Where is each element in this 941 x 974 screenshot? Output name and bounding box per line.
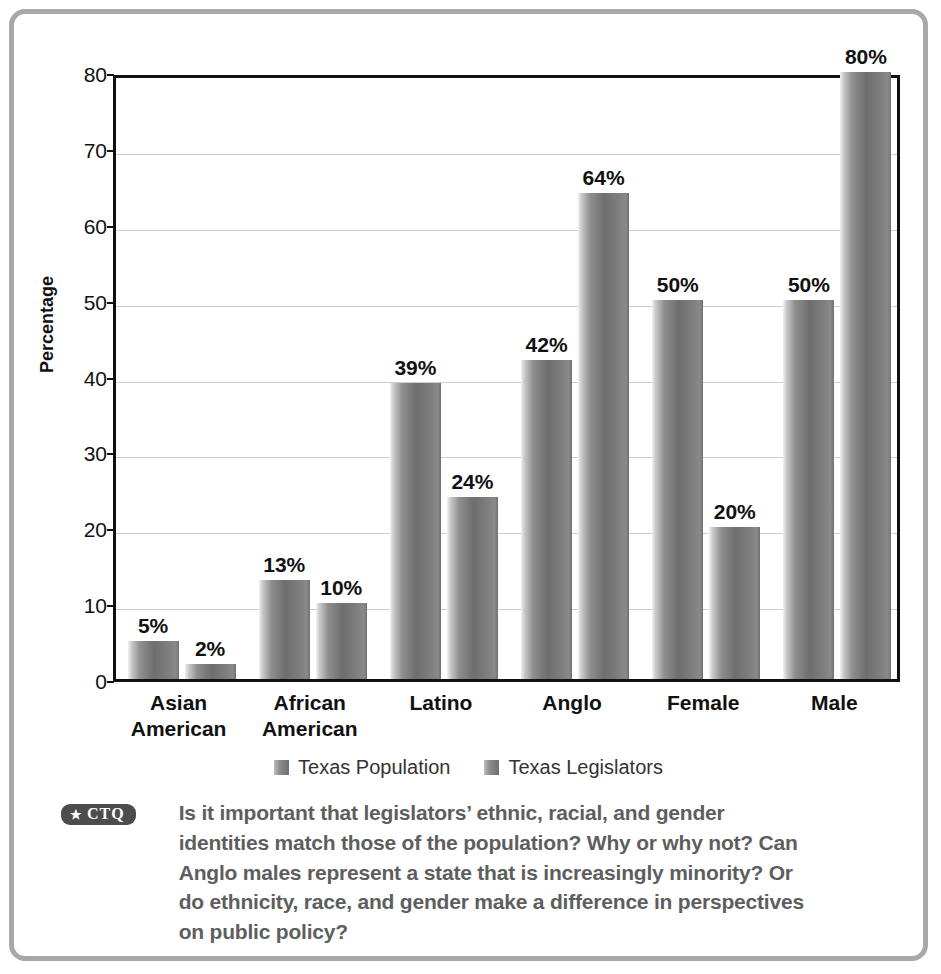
- bar-value-label: 42%: [526, 333, 568, 357]
- legend-item[interactable]: Texas Population: [274, 756, 450, 779]
- y-tick-label: 40: [61, 367, 107, 391]
- legend-swatch-icon: [484, 760, 499, 775]
- bar[interactable]: 64%: [578, 193, 629, 679]
- x-category-line: Asian: [113, 690, 244, 716]
- bar-value-label: 80%: [845, 45, 887, 69]
- bar[interactable]: 50%: [783, 300, 834, 679]
- x-category-line: Anglo: [507, 690, 638, 716]
- x-category-label: Latino: [375, 690, 506, 716]
- caption-block: ★ CTQ Is it important that legislators’ …: [14, 798, 923, 947]
- x-axis-category-labels: AsianAmericanAfricanAmericanLatinoAngloF…: [113, 690, 900, 754]
- bar-group: 42%64%: [521, 78, 629, 679]
- bar-value-label: 39%: [394, 356, 436, 380]
- ctq-badge: ★ CTQ: [61, 804, 136, 825]
- y-tick-label: 80: [61, 63, 107, 87]
- caption-paragraph: Is it important that legislators’ ethnic…: [179, 798, 819, 947]
- bar[interactable]: 5%: [128, 641, 179, 679]
- bar-value-label: 50%: [788, 273, 830, 297]
- x-category-label: Anglo: [507, 690, 638, 716]
- legend-label: Texas Legislators: [508, 756, 663, 779]
- bar-value-label: 20%: [714, 500, 756, 524]
- bar-value-label: 64%: [583, 166, 625, 190]
- bar[interactable]: 2%: [185, 664, 236, 679]
- bar[interactable]: 13%: [259, 580, 310, 679]
- star-icon: ★: [70, 808, 83, 821]
- chart-legend: Texas PopulationTexas Legislators: [14, 756, 923, 779]
- caption-text: Is it important that legislators’ ethnic…: [179, 798, 819, 947]
- bar[interactable]: 24%: [447, 497, 498, 679]
- bar-value-label: 13%: [263, 553, 305, 577]
- chart-region: Percentage 01020304050607080 5%2%13%10%3…: [14, 14, 923, 756]
- x-category-label: AsianAmerican: [113, 690, 244, 743]
- x-category-label: Female: [638, 690, 769, 716]
- bar-group: 13%10%: [259, 78, 367, 679]
- x-category-line: American: [244, 716, 375, 742]
- y-tick-label: 10: [61, 594, 107, 618]
- bar-value-label: 50%: [657, 273, 699, 297]
- x-category-line: Latino: [375, 690, 506, 716]
- y-tick-label: 70: [61, 139, 107, 163]
- x-category-line: African: [244, 690, 375, 716]
- x-category-line: American: [113, 716, 244, 742]
- y-tick-label: 0: [61, 670, 107, 694]
- bar-group: 5%2%: [128, 78, 236, 679]
- bar-value-label: 5%: [138, 614, 168, 638]
- bar[interactable]: 42%: [521, 360, 572, 679]
- bar[interactable]: 20%: [709, 527, 760, 679]
- y-axis-ticks: 01020304050607080: [55, 75, 107, 682]
- bar-value-label: 24%: [451, 470, 493, 494]
- x-category-label: Male: [769, 690, 900, 716]
- ctq-badge-label: CTQ: [87, 806, 125, 822]
- x-category-line: Male: [769, 690, 900, 716]
- legend-item[interactable]: Texas Legislators: [484, 756, 663, 779]
- bar[interactable]: 80%: [840, 72, 891, 679]
- y-tick-label: 20: [61, 518, 107, 542]
- y-tick-label: 50: [61, 291, 107, 315]
- x-category-label: AfricanAmerican: [244, 690, 375, 743]
- bar-series-container: 5%2%13%10%39%24%42%64%50%20%50%80%: [116, 78, 897, 679]
- bar-group: 50%20%: [652, 78, 760, 679]
- y-tick-label: 60: [61, 215, 107, 239]
- legend-label: Texas Population: [298, 756, 450, 779]
- bar[interactable]: 39%: [390, 383, 441, 679]
- bar-group: 50%80%: [783, 78, 891, 679]
- y-tick-label: 30: [61, 442, 107, 466]
- bar-group: 39%24%: [390, 78, 498, 679]
- plot-area: 5%2%13%10%39%24%42%64%50%20%50%80%: [113, 75, 900, 682]
- figure-frame: Percentage 01020304050607080 5%2%13%10%3…: [9, 9, 928, 961]
- bar-value-label: 2%: [195, 637, 225, 661]
- bar-value-label: 10%: [320, 576, 362, 600]
- bar[interactable]: 10%: [316, 603, 367, 679]
- legend-swatch-icon: [274, 760, 289, 775]
- x-category-line: Female: [638, 690, 769, 716]
- bar[interactable]: 50%: [652, 300, 703, 679]
